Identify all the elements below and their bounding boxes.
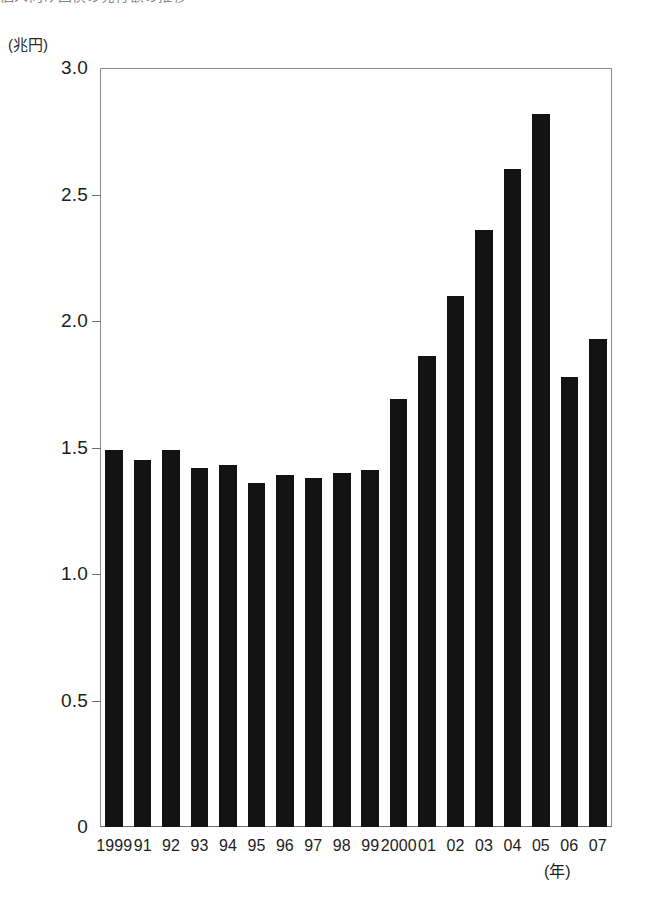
y-axis-tick-label: 1.5 bbox=[4, 438, 88, 457]
bar bbox=[276, 475, 294, 827]
bar bbox=[105, 450, 123, 827]
y-axis-tick bbox=[92, 574, 101, 575]
y-axis-tick-label: 2.0 bbox=[4, 311, 88, 330]
x-axis-tick-label: 07 bbox=[589, 836, 607, 856]
bar bbox=[333, 473, 351, 827]
y-axis-tick bbox=[92, 321, 101, 322]
bar bbox=[390, 399, 408, 827]
page-title-text: 個人向け国債の発行額の推移 bbox=[0, 0, 648, 2]
x-axis-tick-label: 92 bbox=[162, 836, 180, 856]
x-axis-tick-label: 94 bbox=[219, 836, 237, 856]
x-axis-tick-label: 1999 bbox=[96, 836, 132, 856]
y-axis-tick-label: 1.0 bbox=[4, 564, 88, 583]
bar bbox=[162, 450, 180, 827]
x-axis-tick-label: 99 bbox=[361, 836, 379, 856]
x-axis-tick-label: 04 bbox=[503, 836, 521, 856]
bar bbox=[475, 230, 493, 827]
x-axis-unit-label: (年) bbox=[544, 862, 571, 882]
y-axis-tick-label: 3.0 bbox=[4, 58, 88, 77]
y-axis-tick bbox=[92, 701, 101, 702]
bar bbox=[447, 296, 465, 827]
y-axis-tick bbox=[92, 448, 101, 449]
x-axis-tick-label: 05 bbox=[532, 836, 550, 856]
page-title: 個人向け国債の発行額の推移 bbox=[0, 0, 648, 11]
y-axis-tick bbox=[92, 195, 101, 196]
y-axis-tick-label: 2.5 bbox=[4, 185, 88, 204]
bar bbox=[532, 114, 550, 827]
bar bbox=[248, 483, 266, 827]
y-axis-tick-label: 0 bbox=[4, 817, 88, 836]
bar bbox=[305, 478, 323, 827]
x-axis-tick-label: 06 bbox=[560, 836, 578, 856]
bar bbox=[418, 356, 436, 827]
x-axis-tick-label: 01 bbox=[418, 836, 436, 856]
bar bbox=[504, 169, 522, 827]
bar bbox=[134, 460, 152, 827]
bar bbox=[361, 470, 379, 827]
bar bbox=[219, 465, 237, 827]
x-axis-tick-label: 03 bbox=[475, 836, 493, 856]
y-axis-tick-label: 0.5 bbox=[4, 691, 88, 710]
x-axis-tick-label: 97 bbox=[304, 836, 322, 856]
bar bbox=[589, 339, 607, 827]
bar bbox=[561, 377, 579, 827]
x-axis-tick-label: 95 bbox=[247, 836, 265, 856]
x-axis-tick-label: 02 bbox=[447, 836, 465, 856]
x-axis-tick-label: 93 bbox=[191, 836, 209, 856]
x-axis-tick-label: 2000 bbox=[381, 836, 417, 856]
y-axis: 00.51.01.52.02.53.0 bbox=[0, 0, 88, 920]
x-axis-tick-label: 96 bbox=[276, 836, 294, 856]
bar bbox=[191, 468, 209, 827]
bar-series bbox=[100, 68, 612, 827]
x-axis-tick-label: 98 bbox=[333, 836, 351, 856]
x-axis-tick-label: 91 bbox=[134, 836, 152, 856]
x-axis: 1999919293949596979899200001020304050607 bbox=[0, 836, 648, 860]
